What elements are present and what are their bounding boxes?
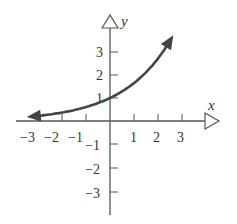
y-ticks (110, 52, 118, 192)
x-axis-arrow-icon (205, 113, 219, 129)
x-tick-label: −1 (68, 130, 83, 145)
x-tick-label: −2 (44, 130, 59, 145)
x-tick-label: 2 (153, 130, 160, 145)
y-tick-label: −1 (85, 138, 100, 153)
curve-arrow-left-icon (27, 110, 42, 122)
y-axis-label: y (119, 13, 128, 29)
graph: −3 −2 −1 1 2 3 3 2 1 −1 −2 −3 x y (0, 0, 237, 224)
x-tick-label: −3 (20, 130, 35, 145)
y-tick-label: −3 (85, 186, 100, 201)
y-axis-arrow-icon (102, 15, 118, 28)
x-tick-label: 3 (177, 130, 184, 145)
y-tick-label: −2 (85, 162, 100, 177)
y-tick-label: 2 (96, 68, 103, 83)
y-tick-label: 3 (96, 45, 103, 60)
curve-arrow-right-icon (161, 35, 174, 50)
x-tick-label: 1 (130, 130, 137, 145)
x-axis-label: x (207, 97, 215, 113)
